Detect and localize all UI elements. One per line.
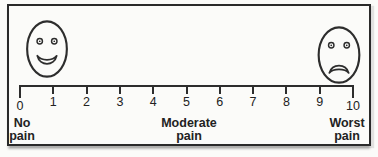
scale-tick-0: 0 [8, 85, 32, 113]
tick-mark [319, 85, 321, 94]
tick-mark [219, 85, 221, 94]
tick-number: 7 [241, 96, 265, 109]
moderate-pain-label: Moderate pain [157, 117, 221, 143]
smiling-face-icon [23, 18, 71, 80]
scale-tick-8: 8 [274, 85, 298, 109]
tick-mark [119, 85, 121, 94]
scale-tick-5: 5 [175, 85, 199, 109]
pain-scale-ruler: 0 1 2 3 4 5 6 7 8 9 10 [20, 85, 353, 115]
tick-number: 2 [75, 96, 99, 109]
tick-number: 1 [41, 96, 65, 109]
tick-mark [86, 85, 88, 94]
scale-tick-7: 7 [241, 85, 265, 109]
tick-number: 5 [175, 96, 199, 109]
tick-number: 9 [308, 96, 332, 109]
tick-mark [19, 85, 21, 98]
worst-pain-label: Worst pain [325, 117, 369, 143]
no-pain-label: No pain [2, 117, 42, 143]
scale-tick-4: 4 [141, 85, 165, 109]
scale-tick-1: 1 [41, 85, 65, 109]
tick-mark [352, 85, 354, 98]
scale-tick-9: 9 [308, 85, 332, 109]
tick-number: 6 [208, 96, 232, 109]
tick-number: 10 [341, 100, 365, 113]
tick-mark [252, 85, 254, 94]
scale-tick-6: 6 [208, 85, 232, 109]
tick-mark [285, 85, 287, 94]
tick-number: 0 [8, 100, 32, 113]
tick-number: 3 [108, 96, 132, 109]
frowning-face-icon [315, 24, 363, 86]
scale-tick-3: 3 [108, 85, 132, 109]
tick-number: 8 [274, 96, 298, 109]
tick-mark [152, 85, 154, 94]
tick-mark [186, 85, 188, 94]
tick-mark [52, 85, 54, 94]
scale-tick-10: 10 [341, 85, 365, 113]
scale-tick-2: 2 [75, 85, 99, 109]
tick-number: 4 [141, 96, 165, 109]
